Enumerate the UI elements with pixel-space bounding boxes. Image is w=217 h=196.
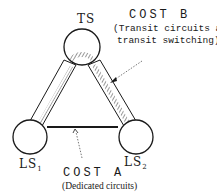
ls2-label: LS2 xyxy=(124,155,148,171)
node-ls2 xyxy=(119,120,153,154)
node-ls1 xyxy=(13,120,47,154)
cost-a-pointer xyxy=(73,129,82,158)
ls1-label-text: LS xyxy=(19,157,37,171)
cost-b-desc-line2: transit switching) * xyxy=(117,35,217,46)
ls2-label-text: LS xyxy=(124,155,142,169)
cost-b-desc-line1: (Transit circuits and xyxy=(113,23,217,34)
transit-link-ts-ls1 xyxy=(30,60,76,126)
cost-b-title: COST B xyxy=(129,8,190,22)
cost-b-pointer xyxy=(110,61,142,83)
node-ts xyxy=(64,29,100,65)
cost-a-title: COST A xyxy=(63,166,124,180)
cost-b-desc-line2-text: transit switching) xyxy=(117,35,217,46)
ts-label: TS xyxy=(77,12,95,26)
cost-a-desc: (Dedicated circuits) xyxy=(62,181,137,191)
ls2-label-sub: 2 xyxy=(142,163,147,171)
ls1-label: LS1 xyxy=(19,157,43,173)
ls1-label-sub: 1 xyxy=(37,165,42,173)
